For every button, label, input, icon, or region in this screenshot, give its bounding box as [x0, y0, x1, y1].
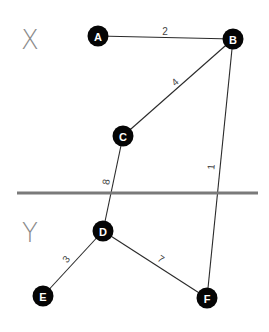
node-e: E: [33, 286, 54, 307]
node-label: A: [94, 31, 102, 43]
node-c: C: [113, 126, 134, 147]
region-label-x: X: [21, 25, 39, 55]
node-a: A: [88, 26, 109, 47]
node-label: E: [39, 291, 46, 303]
edge-b-c: [123, 39, 233, 136]
edge-weight-c-d: 8: [100, 178, 112, 186]
graph-diagram: XY 241837 ABCDEF: [0, 0, 269, 332]
node-f: F: [197, 288, 218, 309]
edge-weight-d-f: 7: [156, 253, 167, 265]
node-d: D: [93, 221, 114, 242]
node-label: C: [119, 131, 127, 143]
edge-weights: 241837: [60, 26, 217, 266]
node-label: B: [229, 34, 237, 46]
edge-weight-d-e: 3: [60, 253, 72, 265]
node-label: F: [204, 293, 211, 305]
node-label: D: [99, 226, 107, 238]
node-b: B: [223, 29, 244, 50]
region-labels: XY: [21, 25, 39, 248]
edge-weight-b-f: 1: [205, 163, 216, 170]
region-label-y: Y: [22, 218, 38, 248]
edge-d-f: [103, 231, 207, 298]
edge-weight-a-b: 2: [162, 26, 168, 37]
edge-d-e: [43, 231, 103, 296]
